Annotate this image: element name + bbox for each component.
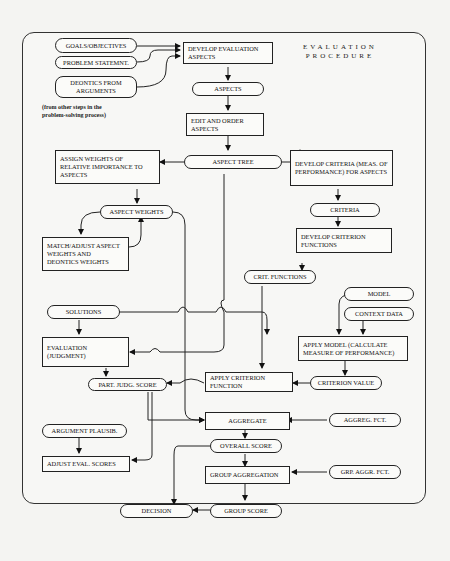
diagram-title: EVALUATION PROCEDURE [300,43,380,61]
node-adjust-eval: ADJUST EVAL. SCORES [42,456,130,472]
node-context-data: CONTEXT DATA [344,307,414,321]
node-goals: GOALS/OBJECTIVES [55,38,137,53]
node-overall-score: OVERALL SCORE [210,439,282,453]
source-note: (from other steps in the problem-solving… [42,103,162,119]
title-line-1: EVALUATION [300,43,380,52]
node-part-judg: PART. JUDG. SCORE [88,378,167,391]
node-develop-crit-fn: DEVELOP CRITERION FUNCTIONS [296,228,392,253]
node-deontics: DEONTICS FROM ARGUMENTS [55,76,137,98]
node-assign-weights: ASSIGN WEIGHTS OF RELATIVE IMPORTANCE TO… [55,150,160,184]
node-aggreg-fct: AGGREG. FCT. [329,413,401,427]
node-problem: PROBLEM STATEMNT. [55,56,137,69]
node-aggregate: AGGREGATE [205,412,290,430]
node-edit-order: EDIT AND ORDER ASPECTS [186,113,264,136]
node-match-adjust: MATCH/ADJUST ASPECT WEIGHTS AND DEONTICS… [42,237,129,271]
node-aspect-tree: ASPECT TREE [184,155,282,169]
node-argument-plaus: ARGUMENT PLAUSIB. [42,424,127,438]
node-decision: DECISION [120,504,193,518]
node-evaluation: EVALUATION (JUDGMENT) [42,337,129,367]
note-line-1: (from other steps in the [42,103,162,111]
node-model: MODEL [344,287,414,301]
node-crit-functions: CRIT. FUNCTIONS [244,270,316,284]
node-criterion-value: CRITERION VALUE [310,376,382,390]
node-group-aggregation: GROUP AGGREGATION [205,466,290,484]
title-line-2: PROCEDURE [300,52,380,61]
node-grp-aggr-fct: GRP. AGGR. FCT. [329,465,401,479]
node-criteria: CRITERIA [310,203,380,217]
node-develop-criteria: DEVELOP CRITERIA (MEAS. OF PERFORMANCE) … [290,150,393,186]
node-apply-model: APPLY MODEL (CALCULATE MEASURE OF PERFOR… [298,336,408,361]
node-apply-crit-fn: APPLY CRITERION FUNCTION [205,372,293,392]
node-aspects: ASPECTS [192,82,264,96]
node-solutions: SOLUTIONS [47,305,120,319]
node-aspect-weights: ASPECT WEIGHTS [100,205,173,219]
node-develop-eval: DEVELOP EVALUATION ASPECTS [183,42,273,64]
node-group-score: GROUP SCORE [210,504,282,518]
note-line-2: problem-solving process) [42,111,162,119]
